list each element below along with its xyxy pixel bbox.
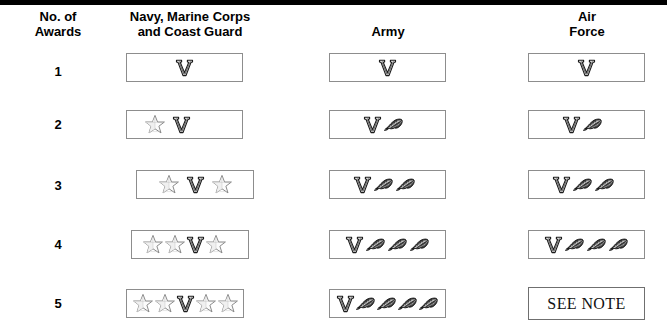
ribbon-cell-army-2: [329, 110, 446, 139]
gold-star-device-icon: [144, 114, 166, 135]
ribbon-cell-navy-2: [126, 110, 243, 139]
gold-star-device-icon: [217, 293, 239, 314]
gold-star-device-icon: [132, 293, 154, 314]
ribbon-cell-army-3: [329, 170, 446, 199]
column-header-air-force: Air Force: [528, 9, 646, 39]
row-number-2: 2: [8, 117, 108, 132]
device-group: [144, 114, 191, 135]
device-group: [158, 174, 233, 195]
oak-leaf-cluster-icon: [594, 177, 615, 192]
device-group: [336, 294, 439, 314]
oak-leaf-cluster-icon: [365, 237, 386, 252]
valor-v-device-icon: [176, 294, 195, 314]
valor-v-device-icon: [345, 235, 364, 255]
valor-v-device-icon: [562, 115, 581, 135]
gold-star-device-icon: [142, 234, 164, 255]
awards-device-chart: No. of Awards Navy, Marine Corps and Coa…: [0, 0, 667, 330]
gold-star-device-icon: [158, 174, 180, 195]
column-header-army: Army: [330, 24, 446, 39]
ribbon-cell-army-4: [329, 230, 446, 259]
valor-v-device-icon: [363, 115, 382, 135]
device-group: [142, 234, 227, 255]
gold-star-device-icon: [195, 293, 217, 314]
ribbon-cell-navy-1: [126, 53, 243, 82]
valor-v-device-icon: [544, 235, 563, 255]
ribbon-cell-army-1: [329, 53, 446, 82]
row-number-1: 1: [8, 64, 108, 79]
gold-star-device-icon: [154, 293, 176, 314]
oak-leaf-cluster-icon: [409, 237, 430, 252]
device-group: [363, 115, 404, 135]
device-group: [353, 175, 416, 195]
valor-v-device-icon: [336, 294, 355, 314]
valor-v-device-icon: [175, 58, 194, 78]
ribbon-cell-army-5: [329, 289, 446, 318]
row-number-4: 4: [8, 237, 108, 252]
oak-leaf-cluster-icon: [608, 237, 629, 252]
column-header-navy-marine-corps-coast-guard: Navy, Marine Corps and Coast Guard: [100, 9, 280, 39]
oak-leaf-cluster-icon: [418, 296, 439, 311]
oak-leaf-cluster-icon: [383, 117, 404, 132]
oak-leaf-cluster-icon: [397, 296, 418, 311]
ribbon-cell-navy-5: [126, 289, 244, 318]
oak-leaf-cluster-icon: [395, 177, 416, 192]
gold-star-device-icon: [211, 174, 233, 195]
device-group: [345, 235, 430, 255]
device-group: [562, 115, 603, 135]
valor-v-device-icon: [552, 175, 571, 195]
gold-star-device-icon: [205, 234, 227, 255]
device-group: [544, 235, 629, 255]
ribbon-cell-air-force-2: [528, 110, 645, 139]
valor-v-device-icon: [577, 58, 596, 78]
see-note-label: SEE NOTE: [547, 295, 625, 313]
ribbon-cell-air-force-3: [528, 170, 645, 199]
valor-v-device-icon: [172, 115, 191, 135]
ribbon-cell-navy-4: [131, 230, 249, 259]
device-group: [378, 58, 397, 78]
oak-leaf-cluster-icon: [572, 177, 593, 192]
oak-leaf-cluster-icon: [376, 296, 397, 311]
valor-v-device-icon: [186, 235, 205, 255]
device-group: [552, 175, 615, 195]
oak-leaf-cluster-icon: [355, 296, 376, 311]
ribbon-cell-air-force-4: [528, 230, 645, 259]
ribbon-cell-air-force-5: SEE NOTE: [528, 287, 645, 320]
ribbon-cell-navy-3: [136, 170, 254, 199]
valor-v-device-icon: [353, 175, 372, 195]
device-group: [175, 58, 194, 78]
oak-leaf-cluster-icon: [582, 117, 603, 132]
device-group: [132, 293, 239, 314]
row-number-3: 3: [8, 178, 108, 193]
valor-v-device-icon: [186, 175, 205, 195]
column-header-no-of-awards: No. of Awards: [8, 9, 108, 39]
oak-leaf-cluster-icon: [586, 237, 607, 252]
valor-v-device-icon: [378, 58, 397, 78]
device-group: [577, 58, 596, 78]
gold-star-device-icon: [164, 234, 186, 255]
oak-leaf-cluster-icon: [564, 237, 585, 252]
oak-leaf-cluster-icon: [387, 237, 408, 252]
ribbon-cell-air-force-1: [528, 53, 645, 82]
row-number-5: 5: [8, 296, 108, 311]
oak-leaf-cluster-icon: [373, 177, 394, 192]
